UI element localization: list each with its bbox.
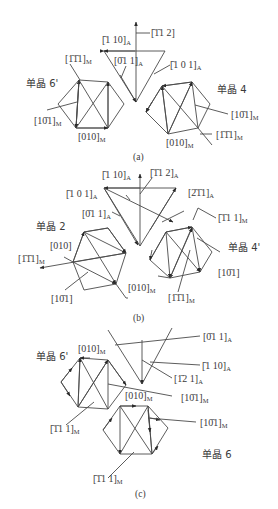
label-text: [2̄1̄1] [188, 187, 209, 198]
label-a-1n1n1M-right: [1̄1̄1]M [216, 130, 243, 143]
label-text: [0̄1 1] [114, 55, 138, 66]
label-sub: A [226, 365, 231, 372]
label-sub: M [117, 478, 123, 485]
label-text: [1̄1̄1] [216, 129, 237, 140]
label-c-1n21A: [1̄2 1]A [174, 374, 203, 387]
crystal-label-6prime-c: 单晶 6' [36, 352, 68, 362]
label-a-n1n12: [̄1̄1 2] [151, 28, 175, 38]
label-text: [10̄1] [34, 115, 56, 126]
label-sub: A [209, 192, 214, 199]
label-b-10n1-left: [10̄1] [51, 294, 73, 304]
label-c-n1n11M-lower: [̄1̄1 1]M [93, 474, 123, 487]
label-sub: A [174, 172, 179, 179]
label-sub: M [74, 428, 80, 435]
label-b-0n11A: [0̄1 1]A [82, 209, 111, 222]
label-sub: A [227, 336, 232, 343]
label-a-0n11A: [0̄1 1]A [114, 56, 143, 69]
label-sub: A [106, 213, 111, 220]
label-text: [1̄1̄1] [18, 253, 39, 264]
label-b-1n1n1M-right: [1̄1̄1]M [168, 293, 195, 306]
label-text: [̄1̄1 2] [150, 167, 174, 178]
label-sub: M [189, 297, 195, 304]
label-sub: M [237, 134, 243, 141]
label-sub: M [222, 422, 228, 429]
label-sub: A [197, 64, 202, 71]
caption-b: (b) [133, 313, 144, 323]
crystal-label-6prime-a: 单晶 6' [26, 79, 58, 89]
label-sub: M [242, 217, 248, 224]
label-sub: M [188, 142, 194, 149]
label-text: [̄1 0 1] [66, 188, 93, 199]
caption-c: (c) [135, 489, 146, 499]
label-b-1n1n1M: [1̄1̄1]M [18, 254, 45, 267]
label-b-2n1n1A: [2̄1̄1]A [188, 188, 214, 201]
label-sub: M [39, 258, 45, 265]
label-text: [̄1̄1 1] [218, 212, 242, 223]
crystal-label-4prime: 单晶 4' [228, 243, 260, 253]
label-b-010-left: [010] [50, 241, 72, 251]
label-sub: A [126, 174, 131, 181]
label-text: [10̄1] [181, 392, 203, 403]
label-text: [10̄1] [200, 417, 222, 428]
label-text: [010] [166, 137, 188, 148]
label-sub: A [93, 193, 98, 200]
label-c-0n11A: [0̄1 1]A [203, 332, 232, 345]
label-text: [0̄1 1] [203, 331, 227, 342]
label-c-n110A: [̄1 10]A [202, 361, 231, 374]
label-sub: M [56, 120, 62, 127]
label-text: [010] [78, 343, 100, 354]
label-a-1n1n1M: [1̄1̄1]M [65, 54, 92, 67]
label-sub: M [150, 287, 156, 294]
crystal-label-6: 单晶 6 [202, 450, 232, 460]
label-sub: M [86, 58, 92, 65]
label-text: [̄1̄1 1] [50, 423, 74, 434]
label-sub: M [100, 136, 106, 143]
label-b-010M: [010]M [128, 283, 155, 296]
crystal-label-2: 单晶 2 [36, 222, 66, 232]
label-text: [010] [128, 282, 150, 293]
label-text: [1̄2 1] [174, 373, 198, 384]
crystal-label-4: 单晶 4 [217, 85, 247, 95]
label-text: [̄1 10] [202, 360, 226, 371]
label-a-010M-left: [010]M [78, 132, 105, 145]
label-text: [̄1 0 1] [170, 59, 197, 70]
label-text: [̄1 10] [102, 34, 126, 45]
label-text: [10̄1] [231, 109, 253, 120]
label-text: [1̄1̄1] [65, 53, 86, 64]
label-text: [010] [125, 390, 147, 401]
label-sub: M [100, 348, 106, 355]
panel-a-lines [47, 22, 228, 145]
label-a-n101A: [̄1 0 1]A [170, 60, 201, 73]
label-c-10n1M-upper: [10̄1]M [181, 393, 208, 406]
label-sub: A [198, 378, 203, 385]
label-c-n1n11M-upper: [̄1̄1 1]M [50, 424, 80, 437]
label-text: [010] [78, 131, 100, 142]
label-sub: M [147, 395, 153, 402]
label-b-n1n12A: [̄1̄1 2]A [150, 168, 179, 181]
label-c-010M-top: [010]M [78, 344, 105, 357]
label-a-10n1M-right: [10̄1]M [231, 110, 258, 123]
label-text: [̄1 10] [102, 169, 126, 180]
label-sub: M [253, 114, 259, 121]
label-a-n110A: [̄1 10]A [102, 35, 131, 48]
label-c-10n1M-lower: [10̄1]M [200, 418, 227, 431]
label-sub: A [138, 60, 143, 67]
label-sub: M [203, 397, 209, 404]
label-b-n101A: [̄1 0 1]A [66, 189, 97, 202]
label-a-10n1M-left: [10̄1]M [34, 116, 61, 129]
label-sub: A [126, 39, 131, 46]
label-text: [̄1̄1 1] [93, 473, 117, 484]
label-c-010M-mid: [010]M [125, 391, 152, 404]
label-a-010M-right: [010]M [166, 138, 193, 151]
caption-a: (a) [133, 152, 144, 162]
label-text: [1̄1̄1] [168, 292, 189, 303]
label-b-10n1-right: [10̄1] [218, 268, 240, 278]
label-b-n110A: [̄1 10]A [102, 170, 131, 183]
label-text: [0̄1 1] [82, 208, 106, 219]
label-b-n1n11M: [̄1̄1 1]M [218, 213, 248, 226]
